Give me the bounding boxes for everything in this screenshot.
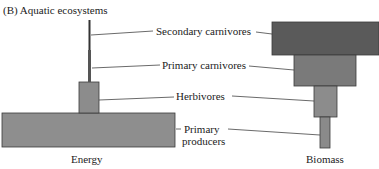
leader-primary-left [92, 65, 160, 68]
biomass-secondary-carnivores-bar [272, 22, 379, 55]
leader-herbivores-left [99, 97, 174, 100]
leader-producers-right [228, 129, 320, 135]
biomass-primary-carnivores-bar [294, 55, 356, 86]
label-herbivores: Herbivores [176, 90, 225, 102]
axis-label-energy: Energy [71, 153, 103, 165]
energy-herbivores-bar [79, 82, 99, 113]
energy-primary-producers-bar [2, 113, 175, 147]
biomass-herbivores-bar [314, 86, 337, 117]
label-primary-producers-line2: producers [182, 135, 225, 147]
energy-secondary-carnivores-bar [89, 20, 91, 50]
leader-primary-right [249, 66, 294, 70]
axis-label-biomass: Biomass [306, 153, 344, 165]
label-secondary-carnivores: Secondary carnivores [156, 25, 251, 37]
biomass-primary-producers-bar [320, 117, 330, 148]
label-primary-producers-line1: Primary [184, 123, 219, 135]
diagram-title: (B) Aquatic ecosystems [3, 4, 107, 16]
energy-primary-carnivores-bar [88, 50, 91, 82]
leader-herbivores-right [232, 96, 314, 101]
leader-secondary-left [91, 31, 153, 35]
leader-secondary-right [256, 32, 272, 34]
label-primary-carnivores: Primary carnivores [162, 59, 246, 71]
